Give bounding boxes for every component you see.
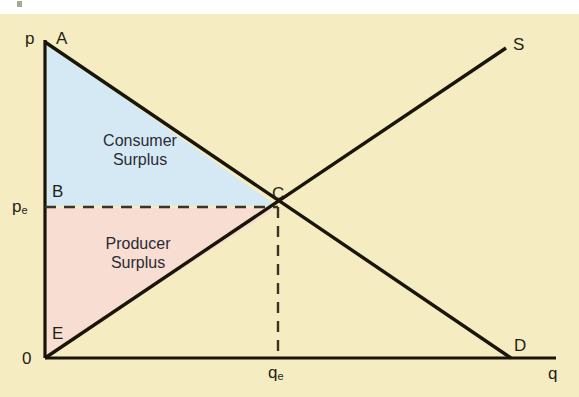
- equilibrium-price-label: pe: [12, 198, 28, 215]
- figure-canvas: p q 0 pe qe A B C D E S Consumer Surplus…: [0, 0, 579, 397]
- equilibrium-quantity-label: qe: [268, 364, 284, 381]
- point-label-d: D: [514, 337, 526, 354]
- point-label-e: E: [52, 325, 63, 342]
- consumer-surplus-label: Consumer Surplus: [80, 131, 200, 169]
- equilibrium-quantity-subscript: e: [277, 370, 283, 382]
- supply-demand-plot: [0, 0, 579, 397]
- y-axis-label: p: [25, 30, 34, 47]
- supply-curve-label: S: [513, 36, 524, 53]
- equilibrium-price-subscript: e: [21, 204, 27, 216]
- x-axis-label: q: [548, 365, 557, 382]
- consumer-surplus-label-line1: Consumer: [80, 131, 200, 150]
- producer-surplus-label-line1: Producer: [78, 234, 198, 253]
- origin-label: 0: [22, 350, 31, 367]
- point-label-c: C: [272, 185, 284, 202]
- consumer-surplus-label-line2: Surplus: [80, 150, 200, 169]
- point-label-b: B: [52, 183, 63, 200]
- point-label-a: A: [56, 30, 67, 47]
- producer-surplus-label-line2: Surplus: [78, 253, 198, 272]
- producer-surplus-label: Producer Surplus: [78, 234, 198, 272]
